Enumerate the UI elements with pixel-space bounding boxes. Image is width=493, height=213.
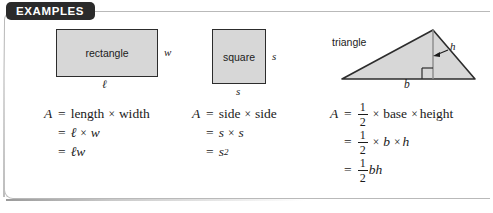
one-half-fraction: 1 2 — [358, 129, 368, 156]
exponent-2: 2 — [224, 147, 229, 157]
formula-line: = s2 — [192, 142, 277, 161]
equals-sign: = — [206, 144, 219, 160]
formula-line: A = 1 2 × base × height — [330, 100, 453, 128]
formula-line: = ℓ × w — [44, 123, 150, 142]
triangle-base-label: b — [404, 78, 410, 90]
multiply-icon: × — [369, 136, 384, 148]
fraction-denominator: 2 — [358, 171, 368, 184]
term-lw: ℓw — [71, 144, 86, 160]
square-side-label-bottom: s — [236, 85, 240, 97]
examples-tab-label: EXAMPLES — [6, 2, 95, 20]
formula-line: A = length × width — [44, 104, 150, 123]
equals-sign: = — [206, 106, 219, 122]
area-variable: A — [44, 106, 58, 122]
equals-sign: = — [58, 144, 71, 160]
fraction-numerator: 1 — [358, 157, 368, 170]
triangle-drawing — [330, 24, 490, 94]
panel-left-shadow — [3, 22, 5, 197]
rectangle-shape-label: rectangle — [56, 29, 158, 77]
term-width: width — [119, 106, 150, 122]
term-height: height — [420, 106, 454, 122]
term-b: b — [383, 134, 390, 150]
square-figure: square s s — [212, 29, 312, 91]
multiply-icon: × — [369, 108, 384, 120]
formula-line: = ℓw — [44, 142, 150, 161]
one-half-fraction: 1 2 — [358, 157, 368, 184]
term-bh: bh — [369, 162, 383, 178]
term-h: h — [402, 134, 409, 150]
multiply-icon: × — [104, 108, 119, 120]
term-length: length — [71, 106, 105, 122]
fraction-denominator: 2 — [358, 143, 368, 156]
square-shape-label: square — [212, 29, 266, 84]
fraction-denominator: 2 — [358, 115, 368, 128]
rectangle-length-label: ℓ — [102, 78, 107, 90]
equals-sign: = — [206, 125, 219, 141]
term-side-1: side — [219, 106, 241, 122]
term-w: w — [91, 125, 100, 141]
equals-sign: = — [58, 106, 71, 122]
equals-sign: = — [344, 162, 357, 178]
fraction-numerator: 1 — [358, 101, 368, 114]
formula-line: A = side × side — [192, 104, 277, 123]
one-half-fraction: 1 2 — [358, 101, 368, 128]
area-variable: A — [330, 106, 344, 122]
triangle-height-label: h — [450, 40, 456, 52]
multiply-icon: × — [224, 127, 239, 139]
rectangle-formula: A = length × width = ℓ × w = ℓw — [44, 104, 150, 161]
term-s-2: s — [238, 125, 243, 141]
rectangle-width-label: w — [164, 46, 171, 58]
equals-sign: = — [344, 106, 357, 122]
equals-sign: = — [344, 134, 357, 150]
equals-sign: = — [58, 125, 71, 141]
multiply-icon: × — [407, 108, 420, 120]
square-side-label-right: s — [272, 50, 276, 62]
multiply-icon: × — [76, 127, 91, 139]
panel-bottom-shadow — [6, 199, 306, 201]
term-base: base — [383, 106, 407, 122]
fraction-numerator: 1 — [358, 129, 368, 142]
multiply-icon: × — [240, 108, 255, 120]
rectangle-figure: rectangle w ℓ — [56, 29, 186, 91]
formula-line: = s × s — [192, 123, 277, 142]
term-side-2: side — [255, 106, 277, 122]
triangle-figure: triangle h b — [330, 24, 490, 94]
triangle-formula: A = 1 2 × base × height = 1 2 × b × h = … — [330, 100, 453, 184]
formula-line: = 1 2 × b × h — [330, 128, 453, 156]
multiply-icon: × — [390, 136, 403, 148]
formula-line: = 1 2 bh — [330, 156, 453, 184]
square-formula: A = side × side = s × s = s2 — [192, 104, 277, 161]
area-variable: A — [192, 106, 206, 122]
